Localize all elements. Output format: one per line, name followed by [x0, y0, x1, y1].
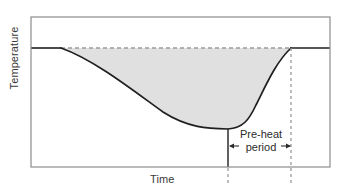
chart-canvas — [0, 0, 340, 193]
shaded-energy-saved-region — [61, 48, 291, 129]
y-axis-label: Temperature — [8, 18, 20, 98]
preheat-period-label-line1: Pre-heat — [233, 128, 289, 140]
preheat-period-label-line2: period — [238, 141, 284, 153]
temperature-time-chart: Temperature Time Pre-heat period — [0, 0, 340, 193]
x-axis-label: Time — [150, 173, 174, 185]
